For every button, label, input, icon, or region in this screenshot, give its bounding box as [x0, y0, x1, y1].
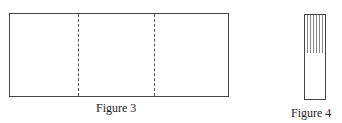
- striped-region: [305, 15, 325, 53]
- figure-3-rectangle: [9, 13, 229, 97]
- figure-3-caption: Figure 3: [96, 101, 136, 116]
- figure-4-strip: [304, 14, 326, 100]
- figure-4-caption: Figure 4: [291, 106, 331, 121]
- fold-line-2: [154, 14, 155, 96]
- fold-line-1: [78, 14, 79, 96]
